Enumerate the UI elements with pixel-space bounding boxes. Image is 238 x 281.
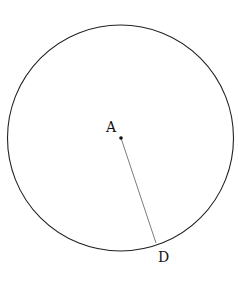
label-D: D: [158, 249, 169, 265]
geometry-diagram: A D: [0, 0, 238, 281]
label-A: A: [105, 119, 117, 135]
segment-AD: [121, 138, 156, 243]
point-A-dot: [119, 136, 123, 140]
